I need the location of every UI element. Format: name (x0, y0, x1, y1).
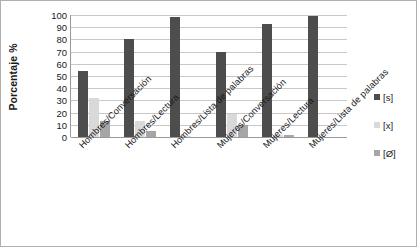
x-tick-label: Hombres/Lista de palabras (169, 64, 255, 150)
x-tick-label: Hombres/Conversación (77, 74, 153, 150)
legend-swatch-icon (374, 94, 380, 100)
legend-item[interactable]: [s] (374, 89, 416, 105)
legend-label: [Ø] (383, 148, 396, 159)
legend-item[interactable]: [x] (374, 117, 416, 133)
chart-legend: [s][x][Ø] (374, 89, 416, 173)
legend-item[interactable]: [Ø] (374, 145, 416, 161)
x-axis-tick-labels: Hombres/ConversaciónHombres/LecturaHombr… (1, 1, 416, 246)
legend-swatch-icon (374, 150, 380, 156)
legend-label: [x] (383, 120, 393, 131)
legend-swatch-icon (374, 122, 380, 128)
legend-label: [s] (383, 92, 393, 103)
bar-chart: Porcentaje % 1009080706050403020100 Homb… (0, 0, 417, 247)
